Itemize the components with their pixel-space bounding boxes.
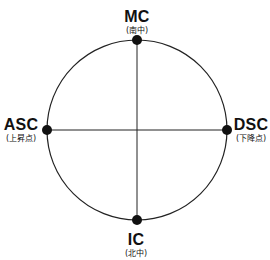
- ic-label-main: IC: [116, 232, 156, 248]
- asc-label-sub: (上昇点): [0, 135, 42, 143]
- mc-label-sub: (南中): [117, 27, 157, 35]
- mc-label-main: MC: [117, 9, 157, 25]
- ic-label-sub: (北中): [116, 250, 156, 258]
- ic-label: IC (北中): [116, 232, 156, 258]
- asc-point-icon: [42, 125, 52, 135]
- mc-label: MC (南中): [117, 9, 157, 35]
- dsc-label-main: DSC: [231, 117, 270, 133]
- dsc-label: DSC (下降点): [231, 117, 270, 143]
- dsc-label-sub: (下降点): [231, 135, 270, 143]
- mc-point-icon: [132, 35, 142, 45]
- asc-label-main: ASC: [0, 117, 42, 133]
- asc-label: ASC (上昇点): [0, 117, 42, 143]
- ic-point-icon: [132, 215, 142, 225]
